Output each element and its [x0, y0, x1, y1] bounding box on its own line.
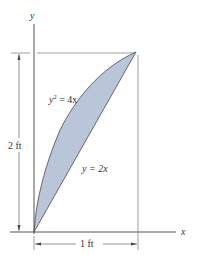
- line-label: y = 2x: [81, 163, 108, 174]
- y-axis-label: y: [29, 10, 35, 21]
- height-dimension-label: 2 ft: [8, 140, 22, 151]
- x-axis-label: x: [180, 226, 186, 237]
- arrow-up-icon: [18, 54, 21, 60]
- arrow-right-icon: [131, 243, 137, 246]
- arrow-left-icon: [35, 243, 41, 246]
- parabola-label: y2 = 4x: [48, 93, 77, 105]
- arrow-down-icon: [18, 225, 21, 231]
- width-dimension-label: 1 ft: [80, 238, 94, 249]
- shaded-region: [34, 52, 136, 232]
- diagram-canvas: y x y2 = 4x y = 2x 2 ft 1 ft: [0, 0, 198, 265]
